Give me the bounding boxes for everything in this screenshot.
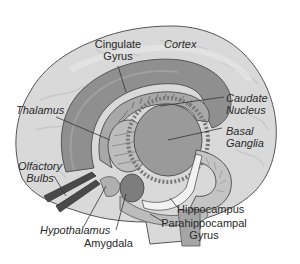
label-parahippocampal-gyrus-line1: Parahippocampal xyxy=(161,217,247,229)
label-caudate-nucleus-line1: Caudate xyxy=(226,92,268,104)
label-hippocampus: Hippocampus xyxy=(177,203,244,215)
label-cingulate-gyrus-line2: Gyrus xyxy=(88,50,148,62)
label-cingulate-gyrus-line1: Cingulate xyxy=(88,38,148,50)
label-caudate-nucleus-line2: Nucleus xyxy=(226,104,268,116)
label-basal-ganglia-line2: Ganglia xyxy=(226,137,264,149)
label-amygdala: Amygdala xyxy=(84,237,133,249)
label-parahippocampal-gyrus: Parahippocampal Gyrus xyxy=(161,217,247,241)
label-thalamus: Thalamus xyxy=(16,104,64,116)
label-olfactory-bulbs-line2: Bulbs xyxy=(8,172,72,184)
label-hypothalamus: Hypothalamus xyxy=(40,224,110,236)
label-olfactory-bulbs: Olfactory Bulbs xyxy=(8,160,72,184)
label-cingulate-gyrus: Cingulate Gyrus xyxy=(88,38,148,62)
label-basal-ganglia-line1: Basal xyxy=(226,125,264,137)
label-olfactory-bulbs-line1: Olfactory xyxy=(8,160,72,172)
amygdala-shape xyxy=(120,174,144,202)
label-cortex: Cortex xyxy=(164,38,196,50)
label-basal-ganglia: Basal Ganglia xyxy=(226,125,264,149)
label-caudate-nucleus: Caudate Nucleus xyxy=(226,92,268,116)
label-parahippocampal-gyrus-line2: Gyrus xyxy=(161,229,247,241)
